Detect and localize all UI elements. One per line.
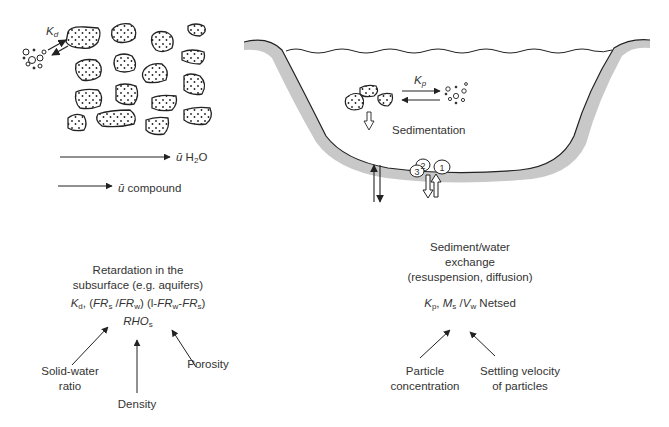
diagram-canvas: 2 3 1 [0,0,669,427]
surface-parameter-arrows [420,330,495,358]
kp-exchange-arrows [402,91,440,100]
process-2-label: 2 [420,161,425,171]
subsurface-formula: Kd, (FRs /FRw) (l-FRw-FRs) RHOs [60,296,216,332]
sedimentation-arrow [364,112,374,130]
subsurface-title: Retardation in the subsurface (e.g. aqui… [70,263,206,293]
surface-formula: Kp, Ms /Vw Netsed [400,296,540,314]
sediment-exchange-title: Sediment/water exchange (resuspension, d… [400,240,540,285]
density-label: Density [105,397,169,412]
dissolved-molecules-right [445,83,467,104]
process-3-label: 3 [414,167,419,177]
sedimentation-label: Sedimentation [392,123,466,138]
h2o-velocity-label: ū H2O [176,150,207,168]
water-surface [286,49,612,53]
process-1-label: 1 [439,163,444,173]
particle-concentration-label: Particle concentration [380,364,470,394]
kd-label: Kd [46,24,58,42]
settling-velocity-label: Settling velocity of particles [468,364,572,394]
solid-water-ratio-label: Solid-water ratio [30,364,110,394]
soil-grains [66,24,211,135]
porosity-label: Porosity [176,357,240,372]
kp-label: Kp [414,73,426,91]
dissolved-molecules-left [23,49,46,69]
kd-exchange-arrows [48,40,68,55]
suspended-particles [345,85,392,110]
compound-velocity-label: ū compound [118,181,181,196]
